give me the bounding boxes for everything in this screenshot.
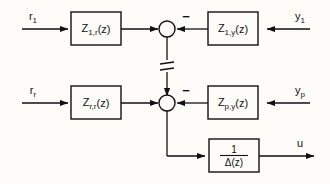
input-label-y1: y1 [295, 10, 306, 25]
block-diagram: r1 Z1,r(z) − Z1,y(z) y1 [0, 0, 330, 184]
block-delta-numerator: 1 [231, 144, 237, 155]
input-label-r1: r1 [29, 10, 38, 25]
input-label-rr: rr [30, 84, 37, 99]
summing-junction-top [159, 21, 175, 37]
sign-middle-negative: − [182, 83, 190, 98]
vertical-break-icon [160, 62, 174, 70]
wire-sum-middle-to-delta [167, 111, 205, 156]
sign-top-negative: − [182, 9, 190, 24]
output-label-u: u [297, 137, 303, 149]
block-delta-denominator: Δ(z) [225, 157, 243, 168]
input-label-yp: yp [295, 84, 306, 99]
summing-junction-middle [159, 95, 175, 111]
